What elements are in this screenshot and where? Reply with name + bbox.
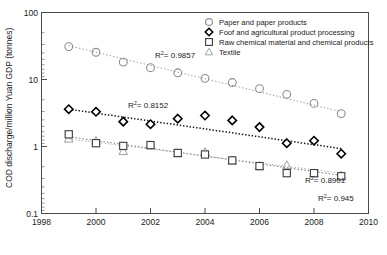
data-point-square [283, 170, 290, 177]
r2-food-value: = 0.8152 [137, 101, 169, 110]
legend-diamond-icon [205, 28, 212, 35]
data-point-circle [283, 90, 291, 98]
x-tick-label-2010: 2010 [359, 217, 378, 227]
series-chemical-points [65, 131, 345, 180]
x-tick-label-2004: 2004 [196, 217, 215, 227]
x-tick-label-2000: 2000 [87, 217, 106, 227]
legend-label-chemical: Raw chemical material and chemical produ… [219, 38, 374, 47]
data-point-square [174, 149, 181, 156]
trendline-paper [69, 46, 342, 112]
data-point-diamond [201, 111, 209, 119]
data-point-square [256, 162, 263, 169]
svg-text:R2= 0.945: R2= 0.945 [318, 193, 354, 203]
data-point-circle [310, 99, 318, 107]
legend-item-food[interactable]: Foof and agricultural product processing [205, 28, 354, 37]
r2-chemical-value: = 0.945 [327, 194, 354, 203]
data-point-diamond [228, 116, 236, 124]
data-point-circle [65, 43, 73, 51]
data-point-circle [256, 85, 264, 93]
y-axis-ticks [42, 13, 48, 214]
legend-item-chemical[interactable]: Raw chemical material and chemical produ… [206, 38, 374, 47]
svg-text:R2= 0.9857: R2= 0.9857 [155, 50, 196, 60]
legend-label-textile: Textile [219, 48, 241, 57]
data-point-square [65, 131, 72, 138]
chart-svg: 100 10 1 0.1 COD discharge/million Yuan … [0, 0, 387, 255]
data-point-diamond [92, 108, 100, 116]
annotation-r2-paper: R2= 0.9857 [155, 50, 196, 60]
data-point-diamond [337, 150, 345, 158]
data-point-diamond [119, 117, 127, 125]
data-point-square [229, 157, 236, 164]
y-tick-label-1: 1 [33, 142, 38, 152]
svg-text:R2= 0.8152: R2= 0.8152 [128, 100, 169, 110]
legend-item-textile[interactable]: Textile [205, 48, 240, 57]
x-axis-ticks [42, 208, 369, 214]
legend-square-icon [206, 39, 213, 46]
data-point-diamond [65, 105, 73, 113]
data-point-diamond [174, 114, 182, 122]
chart-legend: Paper and paper products Foof and agricu… [205, 18, 373, 57]
x-tick-label-1998: 1998 [32, 217, 51, 227]
data-point-circle [174, 69, 182, 77]
legend-label-food: Foof and agricultural product processing [219, 28, 355, 37]
svg-text:R2= 0.8901: R2= 0.8901 [305, 175, 346, 185]
series-food-points [65, 105, 346, 158]
data-point-circle [337, 110, 345, 118]
data-point-diamond [255, 123, 263, 131]
r2-textile-value: = 0.8901 [314, 176, 346, 185]
r2-paper-value: = 0.9857 [164, 51, 196, 60]
legend-triangle-icon [205, 48, 213, 55]
data-point-diamond [283, 139, 291, 147]
x-tick-label-2002: 2002 [141, 217, 160, 227]
data-point-square [147, 141, 154, 148]
legend-item-paper[interactable]: Paper and paper products [206, 18, 307, 27]
legend-label-paper: Paper and paper products [219, 18, 307, 27]
x-tick-label-2006: 2006 [250, 217, 269, 227]
chart-figure: 100 10 1 0.1 COD discharge/million Yuan … [0, 0, 387, 255]
annotation-r2-textile: R2= 0.8901 [305, 175, 346, 185]
x-tick-label-2008: 2008 [305, 217, 324, 227]
y-tick-label-10: 10 [29, 75, 39, 85]
legend-circle-icon [206, 19, 213, 26]
data-point-square [120, 142, 127, 149]
data-point-square [201, 151, 208, 158]
y-tick-label-100: 100 [24, 8, 38, 18]
annotation-r2-food: R2= 0.8152 [128, 100, 169, 110]
data-point-square [92, 140, 99, 147]
y-axis-title: COD discharge/million Yuan GDP (tonnes) [4, 28, 14, 188]
series-paper-points [65, 43, 345, 118]
annotation-r2-chemical: R2= 0.945 [318, 193, 354, 203]
